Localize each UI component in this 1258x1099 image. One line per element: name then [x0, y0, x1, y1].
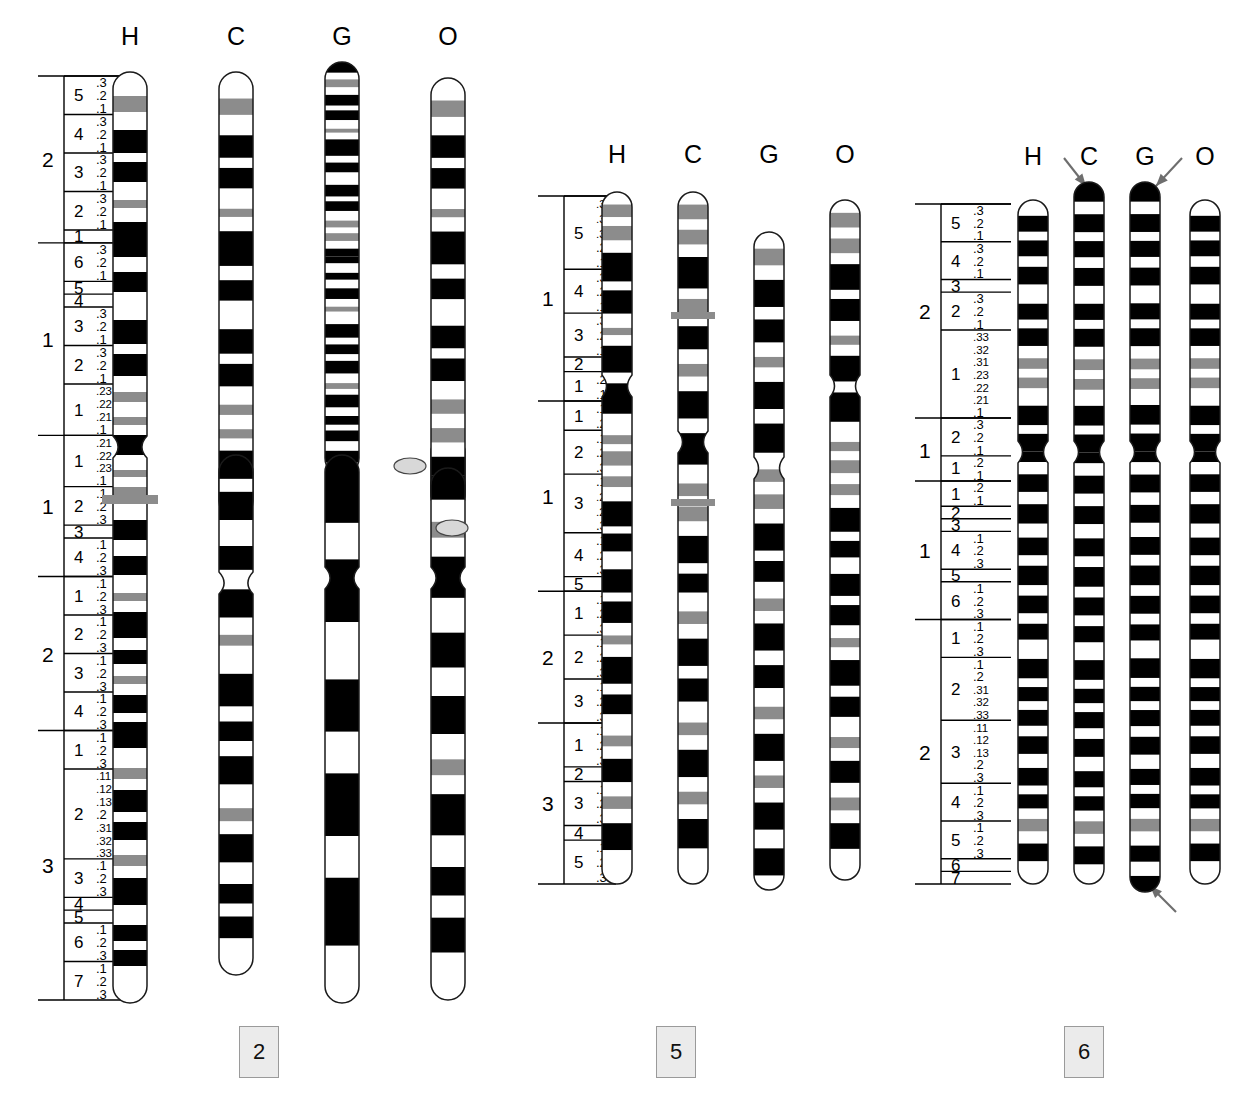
- chromosome-band: [1073, 712, 1105, 728]
- chromosome-band: [601, 253, 633, 282]
- chromosome-band: [829, 460, 861, 473]
- chromosome-band: [601, 328, 633, 335]
- chromosome-band: [218, 99, 254, 115]
- chromosome-band: [601, 501, 633, 526]
- chromosome-band: [1017, 819, 1049, 831]
- region-number: 4: [74, 548, 83, 567]
- chromosome-band: [1189, 216, 1221, 232]
- chromosome-band: [601, 601, 633, 622]
- chromosome-band: [218, 674, 254, 707]
- chromosome-band: [829, 442, 861, 451]
- chromosome-band: [1073, 626, 1105, 642]
- chromosome-band: [1129, 182, 1161, 202]
- satellite-chr2-o-upper: [392, 456, 428, 476]
- chromosome-band: [324, 79, 360, 87]
- region-number: 5: [951, 214, 960, 233]
- chromosome-band: [601, 290, 633, 313]
- chromosome-band: [1017, 566, 1049, 585]
- chromosome-band: [829, 238, 861, 253]
- chromosome-band: [753, 382, 785, 409]
- chromosome-band: [430, 101, 466, 117]
- chromosome-band: [1189, 406, 1221, 425]
- chromosome-band: [1073, 329, 1105, 347]
- chromosome-band: [753, 848, 785, 875]
- region-number: 1: [74, 741, 83, 760]
- region-number: 4: [951, 793, 960, 812]
- region-number: 1: [74, 587, 83, 606]
- region-number: 6: [74, 253, 83, 272]
- chromosome-band: [1017, 736, 1049, 754]
- arm-number: 2: [42, 643, 54, 666]
- chromosome-band: [1189, 304, 1221, 320]
- region-number: 2: [74, 497, 83, 516]
- chromosome-band: [324, 383, 360, 389]
- region-number: 2: [951, 302, 960, 321]
- chromosome-chr6-c: [1060, 168, 1118, 898]
- chromosome-band: [1189, 596, 1221, 614]
- chromosome-band: [677, 391, 709, 418]
- band-number: .33: [973, 709, 989, 721]
- chromosome-band: [601, 759, 633, 782]
- chromosome-band: [601, 736, 633, 747]
- panel-number-label: 2: [253, 1039, 265, 1065]
- region-number: 3: [951, 743, 960, 762]
- region-number: 7: [951, 869, 960, 888]
- region-number: 4: [951, 252, 960, 271]
- chromosome-band: [430, 232, 466, 265]
- chromosome-band: [112, 272, 148, 292]
- chromosome-band: [430, 168, 466, 188]
- chromosome-band: [112, 162, 148, 182]
- region-number: 1: [951, 629, 960, 648]
- band-number: .2: [973, 669, 984, 684]
- chromosome-band: [1189, 794, 1221, 808]
- chromosome-band: [112, 593, 148, 601]
- chromosome-band: [1017, 659, 1049, 678]
- chromosome-band: [1017, 474, 1049, 492]
- chromosome-band: [1017, 358, 1049, 369]
- chromosome-outline: [1116, 168, 1174, 906]
- ideogram-figure: HCGO5.3.2.14.3.2.13.3.2.12.3.2.1126.3.2.…: [0, 0, 1258, 1099]
- chromosome-band: [1073, 406, 1105, 426]
- chromosome-band: [112, 855, 148, 866]
- chromosome-outline: [311, 441, 373, 1017]
- chromosome-band: [1129, 769, 1161, 785]
- chromosome-band: [218, 168, 254, 188]
- chromosome-band: [1189, 768, 1221, 786]
- arm-number: 1: [42, 328, 54, 351]
- chromosome-band: [1189, 378, 1221, 389]
- panel-number-chip-2: 2: [239, 1026, 279, 1078]
- chromosome-band: [677, 611, 709, 624]
- chromosome-outline: [1060, 168, 1118, 898]
- chromosome-band: [218, 280, 254, 300]
- band-number: .31: [973, 684, 989, 696]
- species-header-g: G: [1125, 142, 1165, 171]
- chromosome-band: [1129, 794, 1161, 808]
- chromosome-band: [1073, 567, 1105, 587]
- chromosome-chr2-h: [99, 58, 161, 1017]
- chromosome-chr5-c: [664, 178, 722, 898]
- band-number: .32: [973, 344, 989, 356]
- chromosome-band: [601, 476, 633, 487]
- chromosome-band: [112, 722, 148, 748]
- region-number: 3: [74, 317, 83, 336]
- region-number: 6: [951, 592, 960, 611]
- chromosome-band: [112, 222, 148, 257]
- chromosome-band: [1129, 819, 1161, 831]
- chromosome-band: [1129, 303, 1161, 319]
- chromosome-band: [324, 878, 360, 946]
- chromosome-band: [324, 233, 360, 241]
- chromosome-band: [218, 135, 254, 157]
- chromosome-band: [1017, 624, 1049, 640]
- species-header-o: O: [428, 22, 468, 51]
- chromosome-band: [430, 358, 466, 381]
- chromosome-band: [601, 796, 633, 809]
- chromosome-band: [430, 399, 466, 413]
- chromosome-band: [218, 231, 254, 266]
- chromosome-band: [324, 201, 360, 211]
- chromosome-band: [1073, 771, 1105, 787]
- chromosome-band: [112, 200, 148, 208]
- species-header-c: C: [216, 22, 256, 51]
- chromosome-band: [1073, 846, 1105, 864]
- marker-chr2-h: [102, 495, 158, 504]
- chromosome-outline: [664, 178, 722, 898]
